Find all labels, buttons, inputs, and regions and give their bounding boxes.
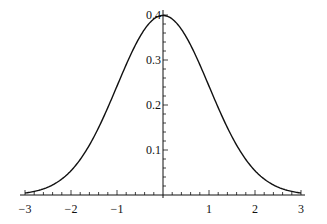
- normal-distribution-chart: −3−2−11230.10.20.30.4: [0, 0, 327, 224]
- x-tick-label: 3: [298, 202, 304, 216]
- y-tick-label: 0.1: [146, 143, 161, 157]
- x-tick-label: 2: [252, 202, 258, 216]
- tick-marks: [25, 15, 301, 195]
- x-tick-label: −1: [111, 202, 124, 216]
- tick-labels: −3−2−11230.10.20.30.4: [19, 8, 304, 216]
- y-tick-label: 0.3: [146, 53, 161, 67]
- y-tick-label: 0.2: [146, 98, 161, 112]
- x-tick-label: −3: [19, 202, 32, 216]
- axes: [20, 10, 305, 198]
- x-tick-label: 1: [206, 202, 212, 216]
- x-tick-label: −2: [65, 202, 78, 216]
